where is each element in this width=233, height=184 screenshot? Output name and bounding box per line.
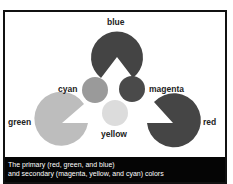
magenta-circle: [119, 76, 145, 102]
figure-caption: The primary (red, green, and blue) and s…: [5, 157, 225, 182]
label-magenta: magenta: [149, 85, 184, 94]
yellow-circle: [102, 100, 128, 126]
label-cyan: cyan: [58, 85, 77, 94]
caption-line-2: and secondary (magenta, yellow, and cyan…: [8, 169, 225, 178]
label-blue: blue: [107, 18, 124, 27]
label-yellow: yellow: [101, 130, 127, 139]
label-red: red: [203, 118, 216, 127]
blue-pacman-shape: [91, 32, 143, 78]
cyan-circle: [82, 77, 108, 103]
green-pacman-shape: [34, 92, 88, 146]
caption-line-1: The primary (red, green, and blue): [8, 160, 225, 169]
red-pacman-shape: [147, 93, 201, 147]
label-green: green: [8, 118, 31, 127]
